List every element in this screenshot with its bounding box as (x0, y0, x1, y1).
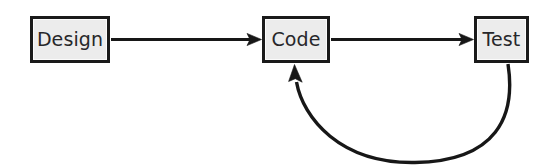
edge-design-to-code (111, 33, 262, 45)
node-test[interactable]: Test (474, 16, 529, 63)
node-design[interactable]: Design (30, 16, 110, 63)
node-code-label: Code (271, 30, 320, 49)
node-test-label: Test (483, 30, 521, 49)
node-design-label: Design (37, 30, 103, 49)
arrowhead-feedback-into-code (289, 65, 303, 83)
edge-feedback-curve (297, 64, 510, 163)
process-flow-diagram: Design Code Test (0, 0, 555, 166)
node-code[interactable]: Code (262, 16, 330, 63)
edge-code-to-test (331, 33, 474, 45)
edge-test-to-code-feedback (289, 64, 510, 163)
